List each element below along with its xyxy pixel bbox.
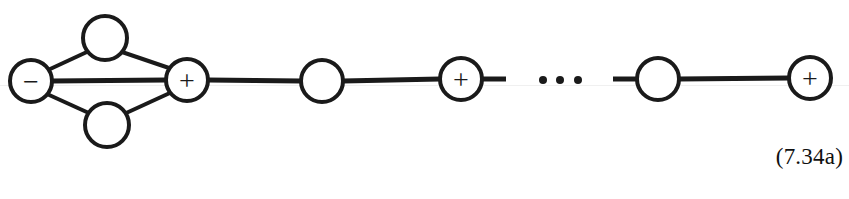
graph-node-n4: + xyxy=(166,59,208,101)
graph-edge xyxy=(47,94,91,114)
node-plus-sign-icon: + xyxy=(179,65,195,96)
graph-node-n2 xyxy=(83,16,127,60)
equation-number-label: (7.34a) xyxy=(776,144,843,170)
node-circle xyxy=(637,58,679,100)
graph-edge xyxy=(122,52,172,69)
graph-edge xyxy=(208,80,301,81)
ellipsis-dot xyxy=(556,76,564,84)
graph-edge xyxy=(48,51,89,70)
node-plus-sign-icon: + xyxy=(802,63,818,94)
ellipsis-dot xyxy=(574,76,582,84)
graph-node-n7 xyxy=(637,58,679,100)
graph-node-n6: + xyxy=(440,58,482,100)
node-circle xyxy=(83,16,127,60)
graph-node-n5 xyxy=(301,60,343,102)
graph-diagram: −+++ xyxy=(0,0,849,199)
graph-node-n8: + xyxy=(789,57,831,99)
graph-node-n3 xyxy=(85,103,129,147)
figure-container: −+++ (7.34a) xyxy=(0,0,849,199)
graph-edge xyxy=(343,79,440,81)
graph-edge xyxy=(124,92,172,114)
node-circle xyxy=(301,60,343,102)
node-plus-sign-icon: + xyxy=(453,64,469,95)
graph-node-n1: − xyxy=(10,60,52,102)
ellipsis-dot xyxy=(539,76,547,84)
graph-edge xyxy=(52,80,166,81)
graph-edge xyxy=(679,78,789,79)
node-minus-sign-icon: − xyxy=(23,66,39,97)
chain-ellipsis xyxy=(539,76,582,84)
node-circle xyxy=(85,103,129,147)
